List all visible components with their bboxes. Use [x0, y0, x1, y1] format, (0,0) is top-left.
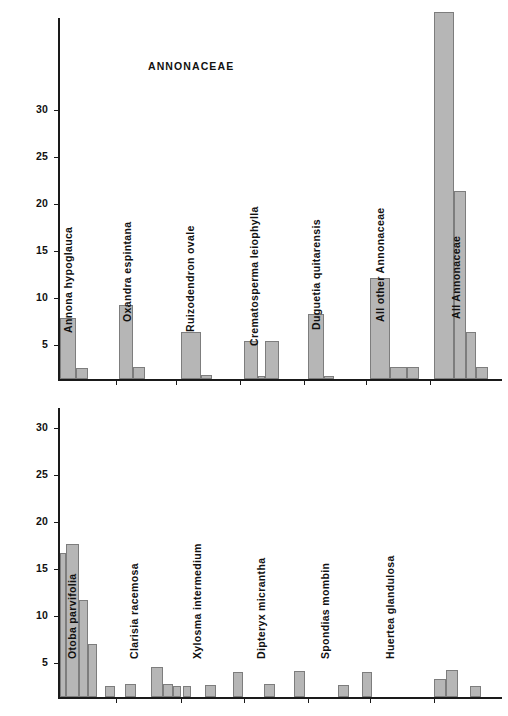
bar-segment: [205, 685, 216, 697]
bar-segment: [76, 368, 88, 379]
species-label-annona-hypoglauca: Annona hypoglauca: [62, 227, 74, 333]
bar-group-all-other-annonaceae: [370, 0, 428, 379]
bar-segment: [434, 679, 446, 697]
baseline-tick: [240, 380, 241, 385]
bar-segment: [264, 684, 275, 697]
y-tick-top-25: [54, 157, 59, 158]
chart-panel-top: ANNONACEAE 30 25 20 15 10 5 Annona hypog…: [0, 0, 508, 400]
baseline-tick: [430, 380, 431, 385]
y-tick-bottom-25: [54, 475, 59, 476]
bar-segment: [79, 600, 88, 697]
baseline-tick: [308, 698, 309, 703]
species-label-duguetia-quitarensis: Duguetia quitarensis: [310, 219, 322, 330]
y-tick-label-top-20: 20: [20, 197, 48, 209]
y-tick-top-15: [54, 251, 59, 252]
species-label-spondias-mombin: Spondias mombin: [319, 563, 331, 659]
baseline-tick: [366, 380, 367, 385]
baseline-tick: [176, 380, 177, 385]
y-tick-top-30: [54, 110, 59, 111]
y-tick-label-bottom-25: 25: [20, 468, 48, 480]
y-tick-label-top-30: 30: [20, 103, 48, 115]
bar-segment: [258, 376, 265, 379]
chart-panel-bottom: 30 25 20 15 10 5 Otoba parvifolia: [0, 400, 508, 716]
y-tick-label-top-15: 15: [20, 244, 48, 256]
species-label-clarisia-racemosa: Clarisia racemosa: [128, 563, 140, 659]
bar-segment: [294, 671, 305, 697]
x-axis-top: [58, 379, 502, 381]
bar-segment: [466, 332, 476, 379]
baseline-tick: [304, 380, 305, 385]
species-label-crematosperma-leiophylla: Crematosperma leiophylla: [248, 206, 260, 346]
species-label-ruizodendron-ovale: Ruizodendron ovale: [184, 225, 196, 332]
species-label-otoba-parvifolia: Otoba parvifolia: [66, 573, 78, 659]
species-label-oxandra-espintana: Oxandra espintana: [121, 222, 133, 322]
bar-segment: [476, 367, 488, 379]
bar-segment: [434, 12, 454, 379]
species-label-all-other-annonaceae: All other Annonaceae: [374, 207, 386, 322]
bar-segment: [181, 332, 201, 379]
bar-segment: [362, 672, 372, 697]
y-tick-bottom-10: [54, 616, 59, 617]
y-tick-top-20: [54, 204, 59, 205]
y-tick-label-bottom-30: 30: [20, 421, 48, 433]
bar-segment: [201, 375, 212, 379]
bar-segment: [470, 686, 481, 697]
species-label-xylosma-intermedium: Xylosma intermedium: [191, 543, 203, 659]
bar-segment: [173, 686, 181, 697]
bar-segment: [125, 684, 136, 697]
bar-segment: [183, 686, 191, 697]
y-tick-top-10: [54, 298, 59, 299]
y-tick-label-bottom-20: 20: [20, 515, 48, 527]
bar-group-all-annonaceae: [434, 0, 496, 379]
bar-segment: [163, 684, 173, 697]
y-tick-bottom-30: [54, 428, 59, 429]
y-tick-bottom-5: [54, 663, 59, 664]
bar-segment: [338, 685, 349, 697]
species-label-huertea-glandulosa: Huertea glandulosa: [384, 555, 396, 659]
y-tick-label-bottom-15: 15: [20, 562, 48, 574]
baseline-tick: [116, 698, 117, 703]
x-axis-bottom: [58, 697, 502, 699]
y-tick-bottom-20: [54, 522, 59, 523]
bar-segment: [244, 341, 258, 379]
bar-segment: [265, 341, 279, 379]
bar-segment: [233, 672, 243, 697]
y-tick-label-top-5: 5: [20, 338, 48, 350]
baseline-tick: [370, 698, 371, 703]
bar-segment: [105, 686, 115, 697]
bar-segment: [151, 667, 163, 697]
bar-segment: [133, 367, 145, 379]
y-tick-top-5: [54, 345, 59, 346]
bar-segment: [446, 670, 458, 697]
y-tick-label-bottom-5: 5: [20, 656, 48, 668]
baseline-tick: [244, 698, 245, 703]
figure-annonaceae-bar-charts: ANNONACEAE 30 25 20 15 10 5 Annona hypog…: [0, 0, 508, 716]
bar-segment: [88, 644, 97, 697]
y-tick-label-top-10: 10: [20, 291, 48, 303]
y-tick-bottom-15: [54, 569, 59, 570]
species-label-all-annonaceae: All Annonaceae: [450, 236, 462, 319]
bar-segment: [390, 367, 407, 379]
y-tick-label-bottom-10: 10: [20, 609, 48, 621]
bar-segment: [324, 376, 334, 379]
y-tick-label-top-25: 25: [20, 150, 48, 162]
bar-group-huertea-glandulosa: [436, 400, 498, 697]
species-label-dipteryx-micrantha: Dipteryx micrantha: [255, 558, 267, 659]
baseline-tick: [116, 380, 117, 385]
baseline-tick: [181, 698, 182, 703]
bar-group-oxandra-espintana: [119, 0, 175, 379]
bar-segment: [407, 367, 419, 379]
baseline-tick: [434, 698, 435, 703]
